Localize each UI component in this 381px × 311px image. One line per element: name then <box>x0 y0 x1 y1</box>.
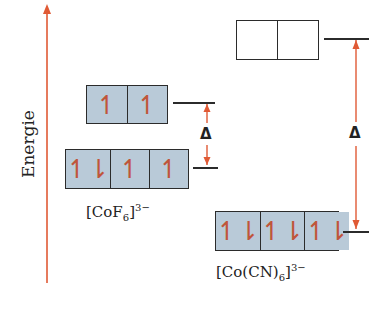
cocn6-t2g-orbitals: ↿⇂ ↿⇂ ↿⇂ <box>215 211 339 251</box>
orbital-cell: ↿ <box>87 86 128 123</box>
orbital-cell: ↿⇂ <box>216 212 261 250</box>
cof6-t2g-orbitals: ↿⇂ ↿ ↿ <box>65 149 189 189</box>
orbital-cell: ↿⇂ <box>261 212 306 250</box>
delta-label-cof6: Δ <box>200 125 212 143</box>
delta-label-cocn6: Δ <box>349 124 361 142</box>
cocn6-eg-orbitals <box>236 20 319 60</box>
cof6-eg-level-line <box>173 102 215 104</box>
cof6-label: [CoF6]3− <box>86 202 150 223</box>
orbital-cell: ↿⇂ <box>66 150 111 188</box>
orbital-cell: ↿ <box>150 150 188 188</box>
cocn6-t2g-level-line <box>343 231 369 233</box>
orbital-cell <box>278 21 318 59</box>
energy-axis-label: Energie <box>18 110 38 178</box>
orbital-cell <box>237 21 278 59</box>
diagram-arrows <box>0 0 381 311</box>
cof6-t2g-level-line <box>193 167 218 169</box>
cocn6-label: [Co(CN)6]3− <box>216 262 306 283</box>
energy-axis-arrow <box>43 4 51 283</box>
cof6-eg-orbitals: ↿ ↿ <box>86 85 168 124</box>
orbital-cell: ↿ <box>128 86 168 123</box>
cocn6-eg-level-line <box>324 38 369 40</box>
orbital-cell: ↿ <box>111 150 150 188</box>
